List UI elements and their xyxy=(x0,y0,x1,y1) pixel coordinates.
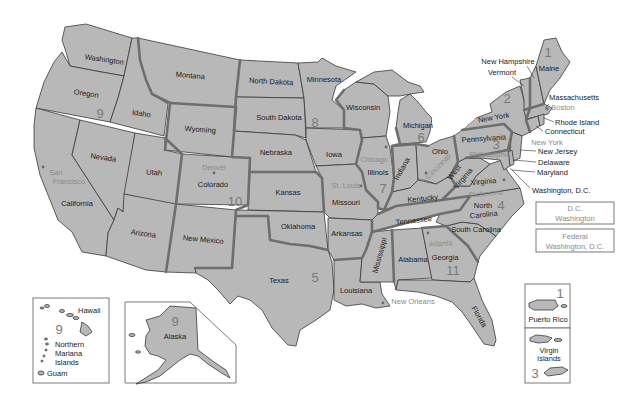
label-california: California xyxy=(61,199,94,208)
city-new-york: New York xyxy=(531,138,563,147)
label-michigan: Michigan xyxy=(403,121,433,130)
callout-rhode-island: Rhode Island xyxy=(555,118,599,127)
city-san-francisco-2: Francisco xyxy=(53,177,86,186)
federal-circuit-box[interactable]: Federal Washington, D.C. xyxy=(536,229,614,252)
city-chicago: Chicago xyxy=(360,155,388,164)
circuit-number-7: 7 xyxy=(379,181,386,196)
callout-washington-dc: Washington, D.C. xyxy=(532,186,591,195)
label-south-dakota: South Dakota xyxy=(256,113,302,122)
circuit-number-11: 11 xyxy=(446,263,460,278)
circuit-number-8: 8 xyxy=(311,115,318,130)
label-alaska: Alaska xyxy=(164,332,187,341)
label-illinois: Illinois xyxy=(368,168,389,177)
label-nebraska: Nebraska xyxy=(260,148,293,157)
dc-circuit-box[interactable]: D.C. Washington xyxy=(536,202,614,224)
label-texas: Texas xyxy=(269,276,289,285)
callout-new-jersey: New Jersey xyxy=(538,147,577,156)
callout-vermont: Vermont xyxy=(488,68,517,77)
label-northern-mariana-3: Islands xyxy=(55,358,79,367)
callout-new-hampshire: New Hampshire xyxy=(481,57,534,66)
city-dot-atlanta xyxy=(427,232,430,235)
city-dot-new-orleans xyxy=(382,302,385,305)
city-atlanta: Atlanta xyxy=(429,238,454,249)
label-missouri: Missouri xyxy=(332,198,360,207)
label-alabama: Alabama xyxy=(398,255,428,264)
inset-puerto-rico[interactable]: 1 Puerto Rico xyxy=(525,284,570,328)
label-georgia: Georgia xyxy=(432,253,460,262)
callout-delaware: Delaware xyxy=(538,158,570,167)
label-south-carolina-1: South Carolina xyxy=(451,225,501,234)
city-dot-denver xyxy=(213,172,216,175)
circuit-number-1: 1 xyxy=(544,45,551,60)
city-dot-richmond xyxy=(503,179,506,182)
label-virgin-islands-2: Islands xyxy=(537,354,561,363)
city-san-francisco-1: San xyxy=(49,168,62,177)
label-arkansas: Arkansas xyxy=(331,229,363,238)
dc-box-line2: Washington xyxy=(555,214,594,223)
city-philadelphia: Philadelphia xyxy=(470,150,512,159)
state-iowa[interactable] xyxy=(306,128,362,166)
circuit-number-3-vi: 3 xyxy=(531,366,538,381)
label-guam: Guam xyxy=(47,369,67,378)
label-louisiana: Louisiana xyxy=(340,286,373,295)
circuit-number-5: 5 xyxy=(311,270,318,285)
city-dot-chicago xyxy=(385,146,388,149)
city-dot-philadelphia xyxy=(509,146,512,149)
dc-box-line1: D.C. xyxy=(568,204,583,213)
inset-alaska[interactable]: 9 Alaska xyxy=(125,302,236,384)
label-northern-mariana-2: Mariana xyxy=(55,349,83,358)
circuit-number-9-hawaii: 9 xyxy=(55,322,62,337)
inset-virgin-islands[interactable]: Virgin Islands 3 xyxy=(525,328,570,383)
callout-maryland: Maryland xyxy=(537,168,568,177)
state-michigan[interactable] xyxy=(396,94,432,144)
circuit-number-9: 9 xyxy=(96,106,103,121)
label-utah: Utah xyxy=(146,167,162,177)
city-boston: Boston xyxy=(551,103,574,112)
city-dot-boston xyxy=(546,108,549,111)
label-puerto-rico: Puerto Rico xyxy=(528,315,567,324)
callout-massachusetts: Massachusetts xyxy=(549,93,599,102)
callout-connecticut: Connecticut xyxy=(545,127,586,136)
city-st-louis: St. Louis xyxy=(331,181,360,190)
city-new-orleans: New Orleans xyxy=(391,297,435,306)
label-oklahoma: Oklahoma xyxy=(281,222,316,231)
circuit-number-1-pr: 1 xyxy=(556,286,563,301)
us-circuit-map: Washington Oregon California Nevada Idah… xyxy=(0,0,632,407)
label-colorado: Colorado xyxy=(198,180,228,189)
city-denver: Denver xyxy=(202,163,227,172)
federal-box-line1: Federal xyxy=(562,232,588,241)
label-minnesota: Minnesota xyxy=(307,75,342,84)
federal-box-line2: Washington, D.C. xyxy=(546,242,605,251)
label-kansas: Kansas xyxy=(275,188,300,197)
circuit-number-6: 6 xyxy=(417,130,424,145)
label-northern-mariana-1: Northern xyxy=(55,340,84,349)
circuit-number-4: 4 xyxy=(497,198,504,213)
inset-hawaii-pacific[interactable]: Hawaii 9 Northern Mariana Islands Guam xyxy=(33,298,109,383)
city-dot-san-francisco xyxy=(42,166,45,169)
circuit-number-10: 10 xyxy=(228,194,242,209)
label-hawaii: Hawaii xyxy=(78,306,101,315)
label-wisconsin: Wisconsin xyxy=(346,103,380,112)
circuit-number-9-alaska: 9 xyxy=(171,314,178,329)
label-iowa: Iowa xyxy=(326,150,343,159)
label-maine: Maine xyxy=(539,64,559,73)
circuit-number-2: 2 xyxy=(503,91,510,106)
